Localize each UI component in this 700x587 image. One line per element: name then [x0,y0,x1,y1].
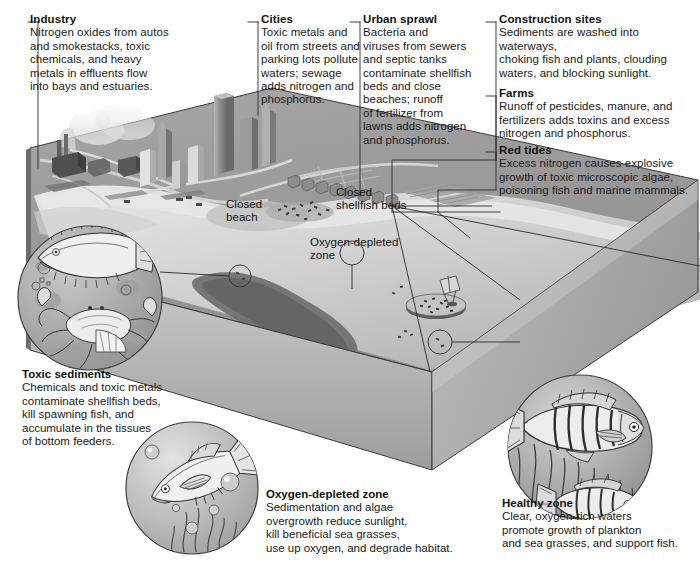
callout-urban-sprawl: Urban sprawl Bacteria and viruses from s… [363,13,475,147]
caption-toxic-sediments: Toxic sediments Chemicals and toxic meta… [22,368,222,448]
diagram-canvas: Industry Nitrogen oxides from autos and … [0,0,700,587]
caption-oxygen-depleted-zone: Oxygen-depleted zone Sedimentation and a… [266,488,486,555]
callout-cities-text: Toxic metals and oil from streets and pa… [261,26,369,106]
callout-red-tides-text: Excess nitrogen causes explosive growth … [499,157,697,197]
callout-construction-sites-title: Construction sites [499,13,695,26]
map-label-closed-beach: Closed beach [226,198,262,225]
map-label-oxygen-depleted-zone: Oxygen-depleted zone [310,236,398,263]
caption-toxic-sediments-title: Toxic sediments [22,368,222,381]
caption-healthy-zone-text: Clear, oxygen-rich waters promote growth… [502,510,698,550]
callout-construction-sites: Construction sites Sediments are washed … [499,13,695,80]
callout-urban-sprawl-text: Bacteria and viruses from sewers and sep… [363,26,475,147]
callout-urban-sprawl-title: Urban sprawl [363,13,475,26]
callout-farms-text: Runoff of pesticides, manure, and fertil… [499,100,695,140]
callout-red-tides: Red tides Excess nitrogen causes explosi… [499,144,697,198]
callout-farms: Farms Runoff of pesticides, manure, and … [499,87,695,141]
caption-healthy-zone: Healthy zone Clear, oxygen-rich waters p… [502,497,698,551]
caption-healthy-zone-title: Healthy zone [502,497,698,510]
callout-farms-title: Farms [499,87,695,100]
callout-construction-sites-text: Sediments are washed into waterways, cho… [499,26,695,80]
callout-cities: Cities Toxic metals and oil from streets… [261,13,369,107]
callout-cities-title: Cities [261,13,369,26]
callout-red-tides-title: Red tides [499,144,697,157]
caption-oxygen-depleted-zone-title: Oxygen-depleted zone [266,488,486,501]
callout-industry-title: Industry [30,13,230,26]
caption-oxygen-depleted-zone-text: Sedimentation and algae overgrowth reduc… [266,501,486,555]
callout-industry: Industry Nitrogen oxides from autos and … [30,13,230,93]
callout-industry-text: Nitrogen oxides from autos and smokestac… [30,26,230,93]
caption-toxic-sediments-text: Chemicals and toxic metals contaminate s… [22,381,222,448]
map-label-closed-shellfish-beds: Closed shellfish beds [336,186,406,213]
